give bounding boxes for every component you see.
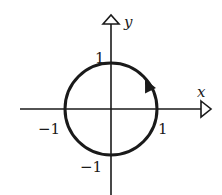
- diagram-canvas: y x 1 −1 1 −1: [0, 0, 222, 195]
- tick-label-x-neg: −1: [38, 120, 60, 138]
- x-axis-arrowhead-icon: [201, 101, 211, 117]
- y-axis-label: y: [123, 13, 133, 31]
- tick-label-y-neg: −1: [80, 158, 102, 176]
- x-axis-label: x: [197, 83, 206, 101]
- tick-label-x-pos: 1: [158, 120, 168, 138]
- tick-label-y-pos: 1: [95, 49, 105, 67]
- y-axis-arrowhead-icon: [103, 15, 119, 24]
- unit-circle-diagram: y x 1 −1 1 −1: [0, 0, 222, 195]
